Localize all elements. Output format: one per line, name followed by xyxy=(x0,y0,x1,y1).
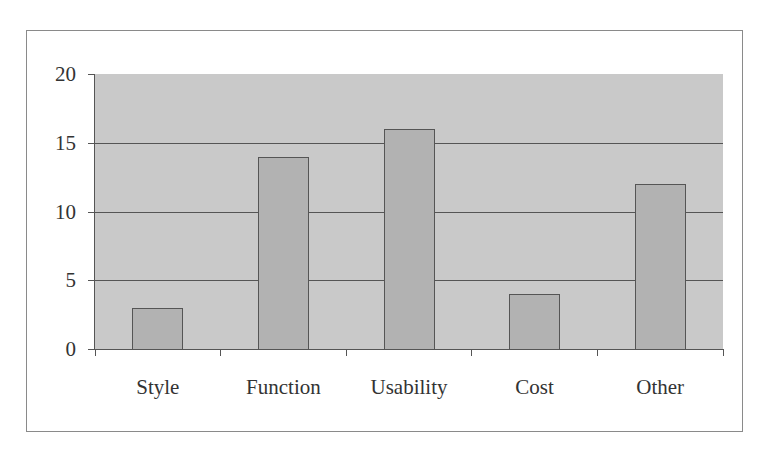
x-tick xyxy=(597,349,598,356)
x-tick xyxy=(220,349,221,356)
bar-function xyxy=(258,157,309,350)
y-tick-label: 20 xyxy=(36,62,76,86)
y-tick-label: 0 xyxy=(36,337,76,361)
y-tick-label: 5 xyxy=(36,268,76,292)
bar-cost xyxy=(509,294,560,349)
bar-usability xyxy=(384,129,435,349)
x-tick xyxy=(95,349,96,356)
x-tick xyxy=(346,349,347,356)
y-tick xyxy=(88,212,95,213)
x-tick-label: Cost xyxy=(472,375,598,399)
y-tick xyxy=(88,143,95,144)
x-tick xyxy=(471,349,472,356)
y-tick-label: 15 xyxy=(36,131,76,155)
x-tick-label: Function xyxy=(220,375,346,399)
y-tick xyxy=(88,280,95,281)
x-tick-label: Usability xyxy=(346,375,472,399)
x-tick xyxy=(723,349,724,356)
bar-style xyxy=(132,308,183,349)
x-axis-line xyxy=(88,349,724,350)
x-tick-label: Other xyxy=(597,375,723,399)
y-tick-label: 10 xyxy=(36,200,76,224)
y-tick xyxy=(88,74,95,75)
bar-other xyxy=(635,184,686,349)
x-tick-label: Style xyxy=(95,375,221,399)
